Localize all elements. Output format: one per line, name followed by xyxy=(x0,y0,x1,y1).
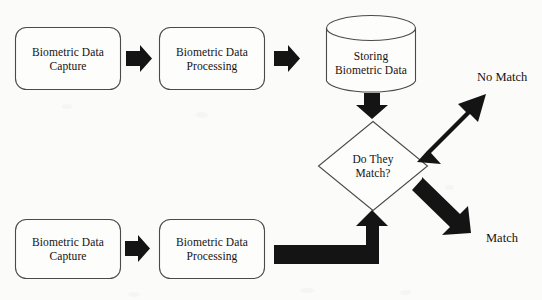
arrow-processing-to-storage xyxy=(274,45,300,72)
node-decision-shape[interactable] xyxy=(319,122,428,211)
flowchart-canvas: Biometric Data Capture Biometric Data Pr… xyxy=(0,0,542,300)
arrow-storage-to-decision xyxy=(356,93,388,119)
arrow-capture-to-processing-bottom xyxy=(125,235,150,262)
no-match-label: No Match xyxy=(477,70,527,84)
node-capture-bottom-shape[interactable] xyxy=(16,220,121,279)
node-processing-bottom-shape[interactable] xyxy=(160,220,265,279)
arrow-capture-to-processing-top xyxy=(126,45,152,72)
arrow-decision-to-no-match xyxy=(417,94,486,164)
node-storage-shape[interactable] xyxy=(327,16,416,93)
arrow-processing-bottom-to-decision xyxy=(274,210,388,264)
arrow-decision-to-match xyxy=(412,177,471,235)
match-label: Match xyxy=(486,231,518,245)
node-processing-top-shape[interactable] xyxy=(160,28,265,90)
node-capture-top-shape[interactable] xyxy=(16,28,121,90)
